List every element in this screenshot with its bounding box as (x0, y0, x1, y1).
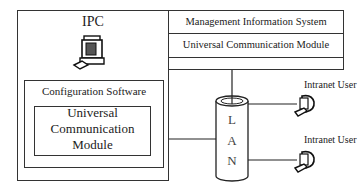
lan-letter-a: A (216, 133, 248, 149)
ipc-module-line3: Module (34, 137, 151, 153)
ipc-module-line1: Universal (34, 105, 151, 121)
intranet-user-1-computer-icon (295, 96, 314, 116)
server-stack-divider-2 (168, 57, 344, 58)
intranet-user-1-label: Intranet User (304, 79, 356, 90)
server-stack-divider-1 (168, 33, 344, 34)
ipc-module-line2: Communication (34, 121, 151, 137)
lan-letter-n: N (216, 153, 248, 169)
management-information-system-label: Management Information System (168, 16, 344, 27)
intranet-user-2-computer-icon (295, 152, 314, 172)
lan-letter-l: L (216, 112, 248, 128)
intranet-user-2-label: Intranet User (304, 134, 356, 145)
configuration-software-title: Configuration Software (24, 85, 164, 97)
universal-communication-module-label: Universal Communication Module (168, 39, 344, 50)
ipc-title: IPC (17, 14, 169, 30)
